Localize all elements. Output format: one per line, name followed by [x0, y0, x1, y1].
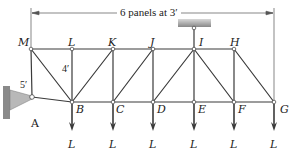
node-label-E: E: [198, 104, 206, 115]
load-label-E: L: [190, 139, 197, 150]
member-AB: [32, 97, 72, 102]
joint-M: [29, 47, 33, 51]
joint-D: [151, 100, 155, 104]
load-arrow-B: [69, 104, 75, 131]
node-label-L: L: [68, 37, 75, 48]
joint-A: [30, 95, 35, 100]
load-label-D: L: [149, 139, 156, 150]
node-label-K: K: [108, 37, 116, 48]
panel-height-label: 4′: [62, 64, 69, 74]
joint-G: [272, 100, 276, 104]
joint-C: [111, 100, 115, 104]
joint-I: [192, 47, 196, 51]
load-arrow-E: [191, 104, 197, 131]
load-arrow-F: [231, 104, 237, 131]
joint-B: [70, 100, 74, 104]
member-MB: [31, 49, 72, 102]
load-label-C: L: [109, 139, 116, 150]
member-ID: [153, 49, 194, 102]
load-arrow-G: [271, 104, 277, 131]
load-label-G: L: [270, 139, 277, 150]
dimension-label: 6 panels at 3′: [117, 7, 181, 18]
node-label-A: A: [31, 118, 39, 129]
truss-members: [31, 49, 274, 102]
member-IF: [194, 49, 234, 102]
member-JC: [113, 49, 153, 102]
node-label-B: B: [76, 104, 84, 115]
load-arrow-D: [150, 104, 156, 131]
node-label-G: G: [280, 104, 289, 115]
joint-F: [232, 100, 236, 104]
node-label-D: D: [157, 104, 166, 115]
member-HG: [234, 49, 274, 102]
node-label-H: H: [230, 37, 240, 48]
left-height-label: 5′: [20, 80, 27, 90]
node-label-F: F: [238, 104, 246, 115]
joint-E: [192, 100, 196, 104]
load-label-B: L: [68, 139, 75, 150]
node-label-J: J: [150, 37, 154, 48]
node-label-I: I: [199, 37, 203, 48]
member-MA: [31, 49, 32, 97]
wall-support: [3, 86, 32, 119]
truss-diagram: [0, 0, 292, 168]
node-label-C: C: [116, 104, 124, 115]
load-label-F: L: [230, 139, 237, 150]
node-label-M: M: [18, 37, 29, 48]
member-KB: [72, 49, 113, 102]
ceiling-support: [178, 19, 211, 49]
